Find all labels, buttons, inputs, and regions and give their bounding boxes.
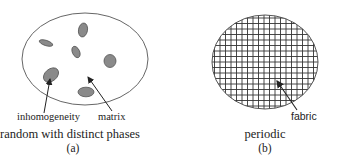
matrix-label: matrix (98, 111, 126, 122)
fabric-label: fabric (291, 110, 317, 122)
inclusion-1 (77, 22, 88, 37)
panel-b-sublabel: (b) (258, 142, 272, 155)
inhomogeneity-label: inhomogeneity (17, 111, 81, 122)
inclusion-6 (78, 87, 94, 97)
panel-a-caption: random with distinct phases (0, 127, 140, 141)
inhomogeneity-arrow (44, 79, 50, 113)
inclusion-3 (70, 45, 82, 59)
inclusion-4 (104, 55, 116, 68)
inhomogeneities (39, 22, 116, 96)
panel-b-caption: periodic (245, 127, 286, 141)
fabric-grid (205, 10, 325, 115)
diagram-canvas: inhomogeneity matrix random with distinc… (0, 0, 338, 163)
inclusion-2 (39, 38, 54, 47)
panel-b: fabric periodic (b) (205, 10, 325, 155)
panel-a: inhomogeneity matrix random with distinc… (0, 13, 148, 155)
inclusion-5 (41, 65, 62, 85)
panel-a-sublabel: (a) (67, 142, 80, 155)
